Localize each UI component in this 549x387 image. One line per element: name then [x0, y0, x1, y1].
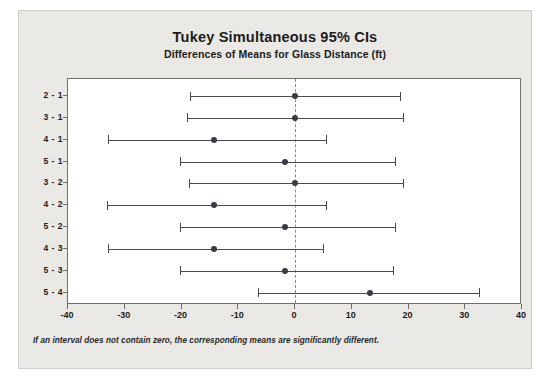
y-axis-tick-label: 5 - 3 [43, 265, 63, 275]
interval-upper-cap [403, 179, 404, 188]
confidence-interval-row [68, 263, 520, 279]
interval-lower-cap [108, 244, 109, 253]
interval-center-marker [282, 268, 288, 274]
y-axis-tick-label: 4 - 2 [43, 199, 63, 209]
x-axis-tick-label: -30 [117, 310, 130, 320]
interval-lower-cap [108, 135, 109, 144]
confidence-interval-row [68, 154, 520, 170]
chart-title-block: Tukey Simultaneous 95% CIs Differences o… [19, 29, 531, 60]
interval-center-marker [211, 137, 217, 143]
x-axis-tick-label: -10 [231, 310, 244, 320]
interval-upper-cap [326, 135, 327, 144]
chart-annotation: If an interval does not contain zero, th… [33, 336, 513, 345]
y-axis-tick-label: 5 - 4 [43, 287, 63, 297]
interval-center-marker [367, 290, 373, 296]
x-axis-tick-label: 10 [346, 310, 356, 320]
x-axis-tick [408, 304, 409, 309]
x-axis-tick [237, 304, 238, 309]
interval-lower-cap [187, 113, 188, 122]
x-axis: -40-30-20-10010203040 [67, 304, 521, 330]
y-axis-tick-label: 3 - 2 [43, 177, 63, 187]
interval-upper-cap [323, 244, 324, 253]
interval-center-marker [292, 93, 298, 99]
interval-center-marker [211, 246, 217, 252]
x-axis-tick-label: 30 [459, 310, 469, 320]
interval-lower-cap [190, 92, 191, 101]
x-axis-tick [181, 304, 182, 309]
y-axis-labels: 2 - 13 - 14 - 15 - 13 - 24 - 25 - 24 - 3… [19, 78, 63, 304]
y-axis-tick-label: 3 - 1 [43, 112, 63, 122]
x-axis-tick [67, 304, 68, 309]
y-axis-tick-label: 5 - 2 [43, 221, 63, 231]
x-axis-tick [521, 304, 522, 309]
interval-lower-cap [180, 266, 181, 275]
interval-center-marker [282, 159, 288, 165]
interval-upper-cap [403, 113, 404, 122]
y-axis-tick-label: 5 - 1 [43, 156, 63, 166]
interval-line [180, 227, 395, 228]
confidence-interval-row [68, 88, 520, 104]
x-axis-tick [124, 304, 125, 309]
confidence-interval-row [68, 241, 520, 257]
confidence-interval-row [68, 132, 520, 148]
x-axis-tick-label: 0 [291, 310, 296, 320]
interval-lower-cap [189, 179, 190, 188]
interval-upper-cap [395, 223, 396, 232]
scanned-page: Tukey Simultaneous 95% CIs Differences o… [0, 0, 549, 387]
interval-upper-cap [479, 288, 480, 297]
chart-card: Tukey Simultaneous 95% CIs Differences o… [18, 10, 532, 369]
x-axis-tick [464, 304, 465, 309]
interval-lower-cap [180, 157, 181, 166]
interval-center-marker [292, 115, 298, 121]
confidence-interval-row [68, 110, 520, 126]
x-axis-tick-label: -20 [174, 310, 187, 320]
interval-lower-cap [107, 201, 108, 210]
interval-upper-cap [395, 157, 396, 166]
x-axis-tick [294, 304, 295, 309]
x-axis-tick [351, 304, 352, 309]
y-axis-tick-label: 4 - 3 [43, 243, 63, 253]
chart-title: Tukey Simultaneous 95% CIs [19, 29, 531, 45]
chart-subtitle: Differences of Means for Glass Distance … [19, 48, 531, 60]
interval-upper-cap [400, 92, 401, 101]
interval-upper-cap [393, 266, 394, 275]
x-axis-tick-label: 20 [402, 310, 412, 320]
confidence-interval-row [68, 219, 520, 235]
x-axis-tick-label: -40 [60, 310, 73, 320]
interval-upper-cap [326, 201, 327, 210]
interval-lower-cap [180, 223, 181, 232]
confidence-interval-row [68, 285, 520, 301]
y-axis-tick-label: 2 - 1 [43, 90, 63, 100]
confidence-interval-row [68, 197, 520, 213]
plot-area [67, 78, 521, 304]
y-axis-tick-label: 4 - 1 [43, 134, 63, 144]
interval-center-marker [282, 224, 288, 230]
interval-lower-cap [258, 288, 259, 297]
interval-center-marker [211, 202, 217, 208]
interval-center-marker [292, 180, 298, 186]
x-axis-tick-label: 40 [516, 310, 526, 320]
confidence-interval-row [68, 175, 520, 191]
